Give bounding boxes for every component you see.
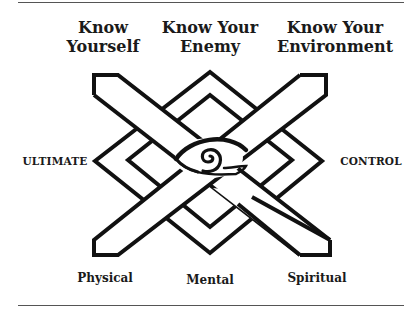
bottom-divider <box>18 305 404 306</box>
label-physical: Physical <box>60 271 150 285</box>
label-mental: Mental <box>165 273 255 287</box>
label-ultimate: ULTIMATE <box>20 155 90 168</box>
label-control: CONTROL <box>336 155 406 168</box>
label-spiritual: Spiritual <box>272 271 362 285</box>
